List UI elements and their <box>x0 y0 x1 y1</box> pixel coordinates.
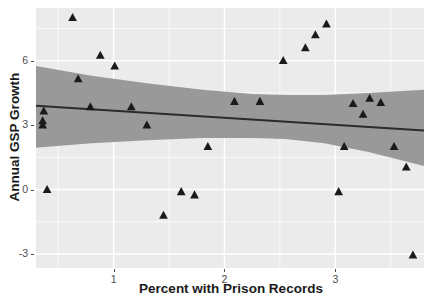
data-point <box>190 190 199 198</box>
data-point <box>110 61 119 69</box>
x-tick-mark <box>224 269 225 272</box>
y-tick-mark <box>31 190 34 191</box>
y-tick-label: 6 <box>4 54 28 66</box>
y-tick-mark <box>31 125 34 126</box>
data-point <box>311 30 320 38</box>
y-tick-label: 0 <box>4 183 28 195</box>
data-point <box>159 211 168 219</box>
y-tick-label: 3 <box>4 118 28 130</box>
y-axis-title: Annual GSP Growth <box>3 2 25 272</box>
y-tick-mark <box>31 61 34 62</box>
data-point <box>177 187 186 195</box>
data-point <box>68 13 77 21</box>
plot-svg <box>36 8 424 268</box>
data-point <box>203 142 212 150</box>
data-point <box>96 51 105 59</box>
x-axis-title: Percent with Prison Records <box>36 281 426 296</box>
data-point <box>301 43 310 51</box>
x-tick-mark <box>335 269 336 272</box>
data-point <box>322 20 331 28</box>
scatter-plot-figure: Annual GSP Growth -3036123 Percent with … <box>0 0 444 304</box>
y-tick-label: -3 <box>4 247 28 259</box>
x-tick-mark <box>114 269 115 272</box>
y-tick-mark <box>31 254 34 255</box>
data-point <box>402 162 411 170</box>
plot-panel <box>36 8 424 268</box>
